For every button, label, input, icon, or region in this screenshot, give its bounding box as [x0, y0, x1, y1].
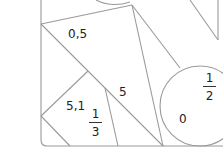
fraction-numerator: 1	[92, 108, 100, 122]
edge-line	[41, 116, 70, 146]
fraction-denominator: 3	[92, 123, 100, 138]
label-five-point-one: 5,1	[66, 100, 85, 112]
edge-line	[105, 88, 118, 146]
top-circle-arc	[96, 0, 130, 5]
fraction-one-third: 1 3	[89, 108, 102, 138]
fraction-numerator: 1	[206, 72, 214, 86]
edge-line	[190, 0, 218, 40]
label-zero-point-five: 0,5	[68, 28, 87, 40]
label-zero: 0	[179, 113, 187, 125]
label-five: 5	[119, 86, 127, 98]
edge-line	[41, 24, 163, 146]
edge-line	[41, 5, 132, 24]
fraction-denominator: 2	[206, 87, 214, 102]
frame-border	[41, 0, 223, 146]
fraction-one-half: 1 2	[203, 72, 216, 102]
number-puzzle-diagram	[0, 0, 223, 151]
